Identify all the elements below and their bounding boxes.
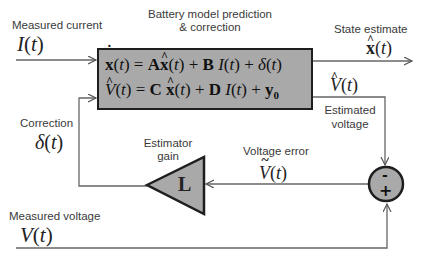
estimator-gain-block [147, 157, 204, 214]
voltage-error-label: Voltage error [243, 145, 309, 158]
block-title-line2: & correction [145, 21, 275, 34]
block-title-line1: Battery model prediction [145, 8, 275, 21]
measured-current-label: Measured current [12, 19, 102, 32]
current-symbol: I(t) [17, 34, 44, 54]
state-equation: x(t) = Ax(t) + B I(t) + δ(t) [105, 55, 282, 75]
voltage-hat-symbol: V(t) [330, 75, 358, 95]
sum-plus-sign: + [379, 181, 392, 200]
estimated-voltage-line2: voltage [318, 118, 382, 131]
estimator-gain-line1: Estimator [138, 137, 198, 150]
correction-symbol: δ(t) [35, 132, 63, 152]
measured-voltage-label: Measured voltage [9, 210, 100, 223]
voltage-error-symbol: V(t) [259, 163, 287, 183]
correction-label: Correction [20, 117, 73, 130]
battery-model-block: x(t) = Ax(t) + B I(t) + δ(t) V(t) = C x(… [97, 48, 313, 110]
estimator-gain-line2: gain [138, 150, 198, 163]
correction-feedback-wire [79, 98, 147, 186]
output-equation: V(t) = C x(t) + D I(t) + y0 [105, 80, 279, 105]
state-hat-symbol: x(t) [366, 38, 392, 58]
measured-voltage-symbol: V(t) [20, 225, 53, 245]
gain-symbol: L [178, 174, 191, 194]
estimated-voltage-line1: Estimated [318, 104, 382, 117]
